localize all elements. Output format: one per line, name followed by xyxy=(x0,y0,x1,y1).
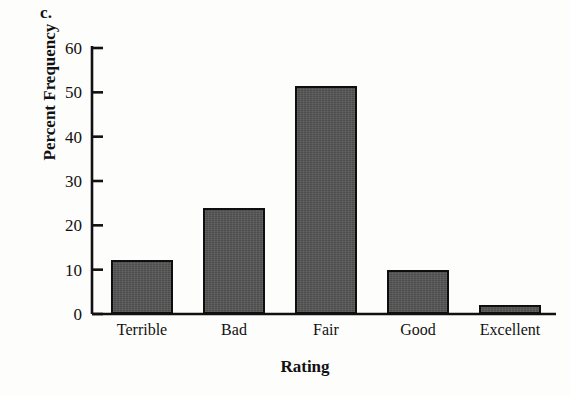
bar xyxy=(295,86,357,314)
y-tick-label: 50 xyxy=(42,84,82,101)
y-tick-label: 10 xyxy=(42,261,82,278)
plot-area: 0102030405060 TerribleBadFairGoodExcelle… xyxy=(0,0,570,396)
y-tick-label: 0 xyxy=(42,306,82,323)
y-tick-label: 20 xyxy=(42,217,82,234)
bar xyxy=(479,305,541,314)
bar xyxy=(203,208,265,314)
bar xyxy=(387,270,449,314)
y-tick-label: 30 xyxy=(42,173,82,190)
x-category-label: Excellent xyxy=(480,322,540,338)
y-tick-label: 40 xyxy=(42,128,82,145)
bar xyxy=(111,260,173,314)
figure-container: c. Percent Frequency Rating 010203040506… xyxy=(0,0,570,396)
x-category-label: Fair xyxy=(313,322,339,338)
y-axis-tick-marks xyxy=(92,48,103,314)
x-category-label: Terrible xyxy=(117,322,167,338)
y-tick-label: 60 xyxy=(42,40,82,57)
x-category-label: Bad xyxy=(221,322,247,338)
x-category-label: Good xyxy=(400,322,436,338)
